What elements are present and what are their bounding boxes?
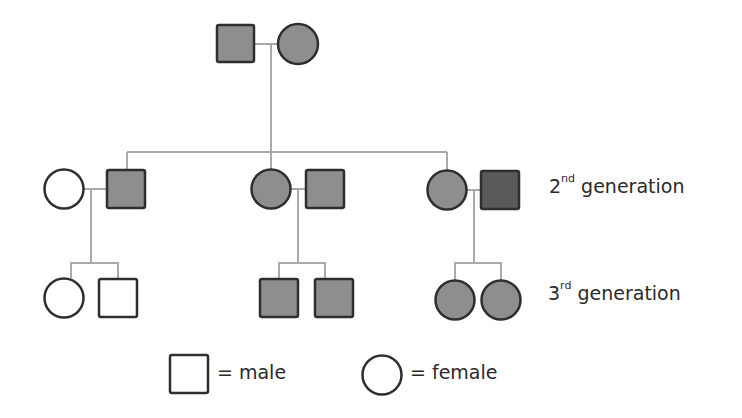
- generation-3-number: 3: [548, 282, 560, 304]
- female-affected-symbol: [278, 24, 318, 64]
- female-affected-symbol: [482, 281, 521, 320]
- legend-female-symbol: [363, 356, 402, 395]
- connector-lines: [71, 44, 501, 280]
- generation-2-text: generation: [575, 175, 684, 197]
- legend-male-label: = male: [217, 361, 286, 383]
- gen3-sibship-right: [455, 263, 501, 280]
- male-affected-symbol: [217, 25, 254, 62]
- legend-male-symbol: [170, 355, 208, 393]
- gen3-sibship-middle: [279, 263, 325, 279]
- male-unaffected-symbol: [99, 279, 137, 317]
- female-affected-symbol: [436, 281, 475, 320]
- female-affected-symbol: [428, 171, 467, 210]
- generation-3-label: 3rd generation: [548, 282, 681, 304]
- pedigree-diagram: [0, 0, 742, 418]
- male-affected-symbol: [306, 170, 344, 208]
- generation-2-number: 2: [549, 175, 561, 197]
- female-affected-symbol: [252, 170, 291, 209]
- generation-3-suffix: rd: [560, 279, 571, 292]
- female-unaffected-symbol: [45, 279, 84, 318]
- generation-3: [45, 279, 521, 320]
- legend-female-label: = female: [410, 361, 497, 383]
- female-unaffected-symbol: [45, 170, 84, 209]
- male-affected-symbol: [315, 279, 353, 317]
- generation-2-suffix: nd: [561, 172, 575, 185]
- male-affected-symbol: [260, 279, 298, 317]
- male-affected-symbol: [107, 170, 145, 208]
- gen3-sibship-left: [71, 263, 118, 279]
- generation-2: [45, 170, 520, 210]
- male-affected-dark-symbol: [481, 171, 519, 209]
- generation-3-text: generation: [571, 282, 680, 304]
- generation-2-label: 2nd generation: [549, 175, 684, 197]
